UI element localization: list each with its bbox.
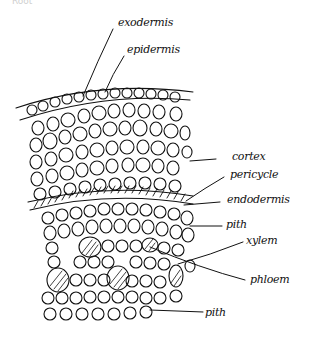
label-cortex: cortex — [232, 150, 265, 163]
stele-cells — [42, 203, 195, 320]
vascular-bundles — [47, 237, 183, 292]
label-pith-lower: pith — [205, 306, 226, 319]
label-pith-upper: pith — [226, 218, 247, 231]
label-exodermis: exodermis — [118, 16, 173, 29]
label-xylem: xylem — [246, 234, 277, 247]
label-epidermis: epidermis — [127, 43, 180, 56]
label-pericycle: pericycle — [230, 168, 278, 181]
label-endodermis: endodermis — [227, 193, 290, 206]
cortex-cells — [30, 103, 192, 200]
label-phloem: phloem — [250, 273, 289, 286]
